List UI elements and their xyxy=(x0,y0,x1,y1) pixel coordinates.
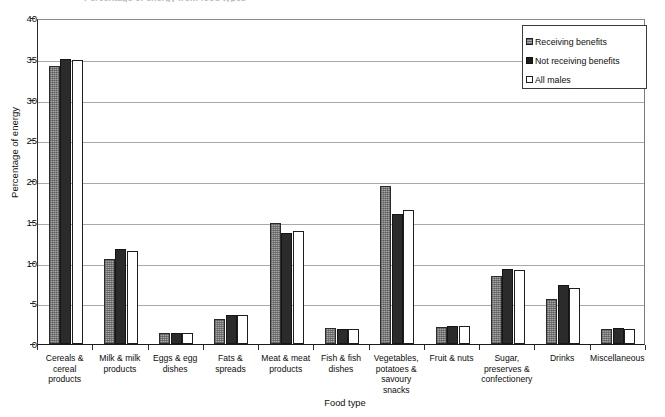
x-axis-tick-label-line: confectionery xyxy=(473,374,540,385)
bar xyxy=(60,59,71,344)
bar xyxy=(558,285,569,344)
bar xyxy=(514,270,525,344)
bar xyxy=(380,186,391,344)
bar xyxy=(281,233,292,344)
x-axis-tick-mark xyxy=(203,345,204,350)
white-square-icon xyxy=(526,76,533,83)
legend-entry: Not receiving benefits xyxy=(526,51,646,70)
bar xyxy=(624,329,635,344)
bar xyxy=(569,288,580,344)
bar xyxy=(601,329,612,344)
bar xyxy=(293,231,304,344)
bar xyxy=(491,276,502,344)
bar xyxy=(613,328,624,344)
cut-off-title-remnant: Percentage of energy from food types xyxy=(84,0,344,2)
bar xyxy=(337,329,348,344)
x-axis-tick-mark xyxy=(645,345,646,350)
gridline xyxy=(38,224,644,225)
bar xyxy=(348,329,359,344)
gridline xyxy=(38,142,644,143)
bar xyxy=(403,210,414,344)
gray-stippled-square-icon xyxy=(526,38,533,45)
x-axis-title: Food type xyxy=(290,398,400,408)
y-axis-tick-mark xyxy=(30,140,35,141)
y-axis-tick-mark xyxy=(30,344,35,345)
y-axis-tick-mark xyxy=(30,100,35,101)
legend-entry: Receiving benefits xyxy=(526,32,646,51)
bar xyxy=(237,315,248,344)
bar xyxy=(72,60,83,344)
bar xyxy=(546,299,557,344)
bar xyxy=(182,333,193,344)
x-axis-tick-mark xyxy=(424,345,425,350)
x-axis-tick-mark xyxy=(37,345,38,350)
bar xyxy=(104,259,115,344)
y-axis-tick-mark xyxy=(30,222,35,223)
bar xyxy=(502,269,513,344)
x-axis-tick-mark xyxy=(590,345,591,350)
bar xyxy=(270,223,281,344)
bar xyxy=(459,326,470,344)
bar xyxy=(436,327,447,344)
x-axis-tick-label-line: potatoes & xyxy=(363,364,430,375)
x-axis-tick-label-line: savoury xyxy=(363,374,430,385)
legend-entry-label: Not receiving benefits xyxy=(535,56,620,66)
gridline xyxy=(38,102,644,103)
bar xyxy=(214,319,225,344)
bar xyxy=(127,251,138,344)
legend-entry-label: All males xyxy=(535,75,571,85)
bar xyxy=(392,214,403,344)
x-axis-tick-mark xyxy=(534,345,535,350)
x-axis-tick-label-line: Miscellaneous xyxy=(584,353,651,364)
legend-entry: All males xyxy=(526,70,646,89)
y-axis-tick-mark xyxy=(30,59,35,60)
bar xyxy=(447,326,458,344)
legend-entry-label: Receiving benefits xyxy=(535,37,607,47)
legend: Receiving benefits Not receiving benefit… xyxy=(522,25,647,89)
x-axis-tick-mark xyxy=(92,345,93,350)
x-axis-tick-mark xyxy=(313,345,314,350)
bar xyxy=(115,249,126,344)
bar xyxy=(171,333,182,344)
x-axis-tick-mark xyxy=(479,345,480,350)
x-axis-tick-mark xyxy=(148,345,149,350)
x-axis-tick-label-line: preserves & xyxy=(473,364,540,375)
bar xyxy=(226,315,237,344)
x-axis-tick-label-line: snacks xyxy=(363,385,430,396)
y-axis: 0510152025303540 Percentage of energy xyxy=(0,19,37,345)
y-axis-title: Percentage of energy xyxy=(9,53,20,253)
x-axis-tick-mark xyxy=(258,345,259,350)
black-square-icon xyxy=(526,57,533,64)
y-axis-tick-mark xyxy=(30,303,35,304)
y-axis-tick-mark xyxy=(30,181,35,182)
x-axis-tick-label-line: products xyxy=(31,374,98,385)
x-axis-tick-mark xyxy=(369,345,370,350)
x-axis-tick-label: Miscellaneous xyxy=(584,353,651,364)
bar xyxy=(49,66,60,344)
bar xyxy=(325,328,336,344)
y-axis-tick-mark xyxy=(30,18,35,19)
y-axis-tick-mark xyxy=(30,263,35,264)
gridline xyxy=(38,183,644,184)
bar xyxy=(159,333,170,344)
